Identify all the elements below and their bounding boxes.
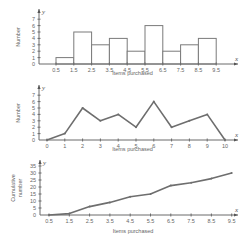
y-axis-variable: y [41,84,46,92]
x-tick-label: 8 [188,143,191,149]
data-point [82,107,84,109]
chart-panel-2: xy01234567012345678910Items purchasedNum… [15,84,239,152]
x-axis-label: Items purchased [112,70,153,76]
data-point [190,182,192,184]
data-point [99,120,101,122]
chart-panel-3: xy051015202530350.51.52.53.54.55.56.57.5… [10,159,239,234]
histogram-bar [74,32,92,64]
data-point [135,126,137,128]
y-tick-label: 5 [32,105,35,111]
data-point [129,196,131,198]
y-tick-label: 3 [32,42,35,48]
chart-panel-1: xy012345670.51.52.53.54.55.56.57.58.59.5… [15,8,239,76]
x-tick-label: 1 [63,143,66,149]
data-point [109,201,111,203]
x-tick-label: 4.5 [126,218,134,224]
histogram-bar [127,51,145,64]
y-tick-label: 4 [32,111,35,117]
charts-figure: xy012345670.51.52.53.54.55.56.57.58.59.5… [0,0,249,243]
y-axis-label: Number [15,27,21,47]
histogram-bar [181,45,199,64]
x-axis-variable: x [234,131,239,139]
x-tick-label: 6.5 [159,67,167,73]
histogram-bar [163,51,181,64]
y-tick-label: 2 [32,48,35,54]
y-tick-label: 10 [30,198,36,204]
histogram-bar [198,38,216,64]
y-axis-arrow-icon [38,160,41,164]
x-tick-label: 5.5 [147,218,155,224]
histogram-bar [145,26,163,64]
x-tick-label: 9.5 [212,67,220,73]
x-tick-label: 10 [222,143,228,149]
y-tick-label: 7 [32,16,35,22]
y-axis-variable: y [41,8,46,16]
x-tick-label: 7.5 [187,218,195,224]
y-tick-label: 0 [32,61,35,67]
y-tick-label: 30 [30,170,36,176]
x-axis-label: Items purchased [112,146,153,152]
data-point [153,101,155,103]
histogram-bar [92,45,110,64]
data-line [49,173,232,215]
histogram-bar [56,58,74,64]
y-tick-label: 5 [32,29,35,35]
y-tick-label: 1 [32,55,35,61]
x-tick-label: 3.5 [106,218,114,224]
data-point [150,193,152,195]
x-tick-label: 0 [45,143,48,149]
y-tick-label: 7 [32,92,35,98]
data-point [64,133,66,135]
y-tick-label: 4 [32,35,35,41]
x-tick-label: 0.5 [52,67,60,73]
y-tick-label: 6 [32,99,35,105]
y-tick-label: 35 [30,163,36,169]
x-tick-label: 6.5 [167,218,175,224]
data-line [47,102,225,140]
x-tick-label: 0.5 [45,218,53,224]
x-tick-label: 7.5 [177,67,185,73]
data-point [224,139,226,141]
y-tick-label: 6 [32,23,35,29]
data-point [171,126,173,128]
x-tick-label: 8.5 [208,218,216,224]
x-tick-label: 9 [206,143,209,149]
y-tick-label: 3 [32,118,35,124]
y-tick-label: 20 [30,184,36,190]
x-tick-label: 2.5 [88,67,96,73]
y-axis-label: Cumulativenumber [10,174,23,202]
data-point [231,172,233,174]
data-point [46,139,48,141]
y-axis-variable: y [42,159,47,167]
y-tick-label: 2 [32,124,35,130]
histogram-bar [109,38,127,64]
data-point [48,214,50,216]
data-point [117,113,119,115]
y-tick-label: 15 [30,191,36,197]
y-tick-label: 25 [30,177,36,183]
data-point [210,178,212,180]
y-tick-label: 1 [32,131,35,137]
y-tick-label: 0 [33,212,36,218]
y-axis-arrow-icon [37,9,40,13]
x-tick-label: 1.5 [65,218,73,224]
x-tick-label: 7 [170,143,173,149]
y-tick-label: 0 [32,137,35,143]
data-point [170,185,172,187]
x-tick-label: 2.5 [86,218,94,224]
x-tick-label: 1.5 [70,67,78,73]
y-axis-label: Number [15,103,21,123]
data-point [188,120,190,122]
y-tick-label: 5 [33,205,36,211]
x-tick-label: 9.5 [228,218,236,224]
data-point [206,113,208,115]
x-axis-label: Items purchased [113,228,154,234]
x-tick-label: 3 [99,143,102,149]
y-axis-arrow-icon [37,85,40,89]
x-tick-label: 2 [81,143,84,149]
x-axis-variable: x [234,55,239,63]
x-axis-variable: x [234,206,239,214]
data-point [89,206,91,208]
x-tick-label: 8.5 [195,67,203,73]
data-point [68,213,70,215]
